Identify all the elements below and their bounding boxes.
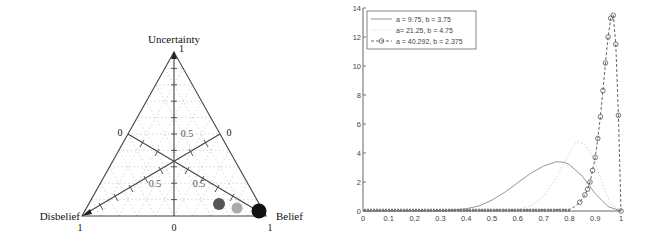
y-tick-label: 6 [357, 120, 361, 129]
x-tick-label: 0.4 [461, 214, 471, 223]
x-tick-label: 0.8 [564, 214, 574, 223]
vertex-label-disbelief: Disbelief [40, 210, 81, 222]
bottom-center-value: 0 [172, 222, 177, 233]
x-tick-label: 0.2 [409, 214, 419, 223]
opinion-points [213, 198, 267, 219]
center-vertical-value: 0.5 [181, 128, 194, 139]
right-mid-value: 0 [227, 127, 232, 138]
ternary-plot: Uncertainty Disbelief Belief 1 1 1 0 0 0… [0, 0, 330, 240]
vertex-label-belief: Belief [276, 210, 303, 222]
left-half-value: 0.5 [149, 178, 162, 189]
x-tick-label: 0.7 [538, 214, 548, 223]
vertex-label-uncertainty: Uncertainty [148, 33, 200, 45]
vertex-value-top: 1 [179, 43, 184, 54]
y-tick-label: 14 [353, 4, 361, 13]
series-a9-b3 [363, 162, 621, 211]
triangle-axes [85, 55, 263, 216]
series-a21-b4 [518, 141, 621, 211]
opinion-point-1 [213, 198, 225, 210]
x-tick-label: 0 [361, 214, 365, 223]
vertex-value-right: 1 [268, 222, 273, 233]
x-tick-label: 0.5 [487, 214, 497, 223]
legend-entry-2: a= 21.25, b = 4.75 [396, 27, 453, 34]
left-mid-value: 0 [118, 127, 123, 138]
opinion-point-2 [232, 203, 243, 214]
y-tick-label: 4 [357, 149, 361, 158]
y-tick-label: 8 [357, 91, 361, 100]
right-half-value: 0.5 [193, 178, 206, 189]
chart-legend: a = 9.75, b = 3.75 a= 21.25, b = 4.75 a … [367, 11, 476, 49]
legend-entry-3: a = 40.292, b = 2.375 [396, 38, 463, 45]
axis-ticks [99, 68, 234, 210]
y-ticks [363, 8, 366, 211]
y-tick-label: 12 [353, 33, 361, 42]
vertex-value-left: 1 [78, 222, 83, 233]
x-tick-label: 0.9 [590, 214, 600, 223]
opinion-point-3 [252, 204, 267, 219]
y-tick-label: 10 [353, 62, 361, 71]
x-tick-label: 1 [619, 214, 623, 223]
x-tick-label: 0.3 [435, 214, 445, 223]
y-tick-label: 2 [357, 178, 361, 187]
beta-pdf-chart: 0 2 4 6 8 10 12 14 0 0.1 0.2 0.3 0.4 0.5… [330, 0, 655, 240]
x-tick-label: 0.1 [384, 214, 394, 223]
x-tick-label: 0.6 [513, 214, 523, 223]
legend-entry-1: a = 9.75, b = 3.75 [396, 16, 451, 23]
